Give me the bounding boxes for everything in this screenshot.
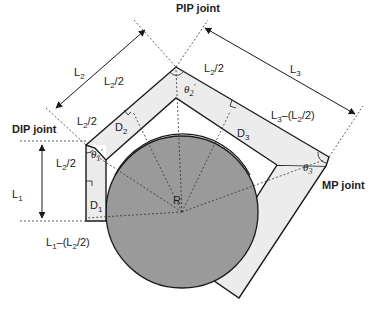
dip-joint-label: DIP joint [12,123,57,135]
l2-half-upper-label: L2/2 [104,75,124,90]
l1-label: L1 [12,188,23,203]
radius-label: R [173,194,181,206]
l2-dimension-arrow [56,30,145,108]
l1-minus-half-l2-label: L1–(L2/2) [46,236,90,251]
l2-half-lower-label: L2/2 [77,115,97,130]
l3-label: L3 [290,63,301,78]
mp-joint-label: MP joint [322,179,365,191]
l2-half-left-label: L2/2 [56,157,76,172]
l3-minus-half-l2-label: L3–(L2/2) [271,109,315,124]
l2-label: L2 [74,66,85,81]
pip-joint-label: PIP joint [176,2,220,14]
l2-half-pip-right-label: L2/2 [204,62,224,77]
finger-geometry-diagram: PIP joint DIP joint MP joint L2 L3 L1 L2… [0,0,379,313]
